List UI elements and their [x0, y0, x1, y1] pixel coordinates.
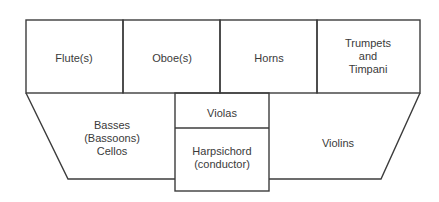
label-trumpets-timpani: Trumpets and Timpani — [345, 37, 391, 76]
label-violins: Violins — [322, 137, 354, 150]
label-harpsichord-conductor: Harpsichord (conductor) — [192, 145, 251, 171]
label-horns: Horns — [254, 52, 283, 65]
seating-diagram-outline — [0, 0, 439, 202]
label-violas: Violas — [207, 107, 237, 120]
label-flutes: Flute(s) — [55, 52, 92, 65]
label-basses-cellos: Basses (Bassoons) Cellos — [84, 119, 140, 158]
label-oboes: Oboe(s) — [152, 52, 192, 65]
